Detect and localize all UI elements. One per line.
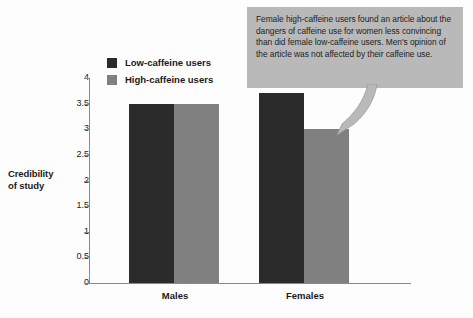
y-axis-tick-label: 2.5 [63, 149, 89, 159]
y-axis-tick-mark [84, 232, 89, 233]
plot-area [90, 78, 411, 283]
annotation-callout: Female high-caffeine users found an arti… [247, 7, 463, 88]
y-axis-tick-mark [84, 181, 89, 182]
x-axis-line [89, 283, 411, 284]
y-axis-tick-label: 3 [63, 123, 89, 133]
y-axis-tick-mark [84, 283, 89, 284]
y-axis-tick-label: 4 [63, 72, 89, 82]
annotation-callout-text: Female high-caffeine users found an arti… [256, 14, 454, 60]
x-axis-label-males: Males [120, 290, 230, 301]
y-axis-tick-label: 0.5 [63, 251, 89, 261]
y-axis-tick-mark [84, 206, 89, 207]
bar-females-low-caffeine-users [259, 93, 304, 283]
y-axis-tick-label: 1 [63, 226, 89, 236]
legend-swatch-icon [107, 75, 117, 85]
y-axis-tick-label: 1.5 [63, 200, 89, 210]
bar-males-low-caffeine-users [129, 104, 174, 283]
legend-item-1: Low-caffeine users [107, 55, 213, 70]
legend-swatch-icon [107, 58, 117, 68]
legend: Low-caffeine usersHigh-caffeine users [107, 55, 213, 89]
x-axis-label-females: Females [250, 290, 360, 301]
bar-chart: Credibility of study 00.511.522.533.54 M… [0, 0, 473, 318]
y-axis-tick-mark [84, 155, 89, 156]
y-axis-tick-mark [84, 129, 89, 130]
bar-females-high-caffeine-users [304, 129, 349, 283]
y-axis-tick-label: 0 [63, 277, 89, 287]
bar-males-high-caffeine-users [174, 104, 219, 283]
legend-item-label: High-caffeine users [125, 74, 213, 85]
legend-item-label: Low-caffeine users [125, 57, 211, 68]
y-axis-tick-mark [84, 104, 89, 105]
y-axis-tick-label: 2 [63, 175, 89, 185]
y-axis-tick-mark [84, 257, 89, 258]
y-axis-tick-label: 3.5 [63, 98, 89, 108]
legend-item-2: High-caffeine users [107, 72, 213, 87]
y-axis-tick-mark [84, 78, 89, 79]
